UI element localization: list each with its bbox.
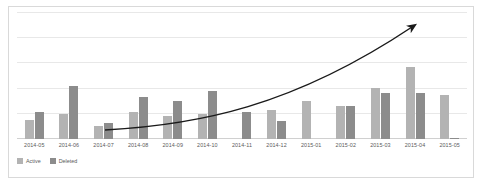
- bar-deleted: [277, 121, 286, 139]
- legend-item-deleted[interactable]: Deleted: [50, 158, 78, 164]
- x-axis-tick-label: 2014-08: [121, 142, 156, 148]
- x-axis-tick-label: 2015-01: [294, 142, 329, 148]
- x-axis-tick-label: 2015-04: [398, 142, 433, 148]
- bar-deleted: [381, 93, 390, 139]
- plot-area: [17, 12, 467, 139]
- bar-group: [155, 12, 190, 139]
- bar-active: [371, 88, 380, 139]
- x-axis-tick-label: 2014-12: [259, 142, 294, 148]
- bar-active: [25, 120, 34, 139]
- bar-deleted: [346, 106, 355, 139]
- bar-deleted: [450, 138, 459, 139]
- bar-deleted: [242, 112, 251, 139]
- bar-group: [294, 12, 329, 139]
- legend-item-active[interactable]: Active: [17, 158, 41, 164]
- bar-deleted: [69, 86, 78, 139]
- bar-group: [328, 12, 363, 139]
- x-axis-labels: 2014-052014-062014-072014-082014-092014-…: [17, 142, 467, 148]
- legend-label: Deleted: [59, 158, 78, 164]
- bar-group: [86, 12, 121, 139]
- bar-active: [163, 116, 172, 139]
- bar-deleted: [173, 101, 182, 139]
- x-axis-tick-label: 2015-03: [363, 142, 398, 148]
- bar-group: [225, 12, 260, 139]
- x-axis-tick-label: 2015-02: [328, 142, 363, 148]
- bar-active: [129, 112, 138, 139]
- bar-group: [121, 12, 156, 139]
- bar-active: [440, 95, 449, 139]
- bar-group: [17, 12, 52, 139]
- x-axis-tick-label: 2014-11: [225, 142, 260, 148]
- bar-group: [398, 12, 433, 139]
- bar-active: [336, 106, 345, 139]
- x-axis-tick-label: 2015-05: [432, 142, 467, 148]
- bar-deleted: [208, 91, 217, 139]
- bar-active: [302, 101, 311, 139]
- bar-group: [432, 12, 467, 139]
- bar-active: [267, 110, 276, 139]
- x-axis-tick-label: 2014-07: [86, 142, 121, 148]
- x-axis-tick-label: 2014-06: [52, 142, 87, 148]
- bar-group: [190, 12, 225, 139]
- x-axis-tick-label: 2014-09: [155, 142, 190, 148]
- bar-active: [406, 67, 415, 139]
- bar-chart-widget: 2014-052014-062014-072014-082014-092014-…: [0, 0, 484, 190]
- bar-deleted: [416, 93, 425, 139]
- bar-deleted: [104, 123, 113, 140]
- bar-deleted: [139, 97, 148, 139]
- legend-swatch-icon: [50, 158, 56, 164]
- bars-layer: [17, 12, 467, 139]
- bar-active: [94, 126, 103, 139]
- bar-group: [363, 12, 398, 139]
- bar-active: [59, 114, 68, 139]
- bar-group: [52, 12, 87, 139]
- legend-swatch-icon: [17, 158, 23, 164]
- x-axis-tick-label: 2014-05: [17, 142, 52, 148]
- legend-label: Active: [26, 158, 41, 164]
- chart-legend: ActiveDeleted: [17, 158, 77, 164]
- bar-active: [198, 114, 207, 139]
- bar-group: [259, 12, 294, 139]
- x-axis-tick-label: 2014-10: [190, 142, 225, 148]
- bar-deleted: [35, 112, 44, 139]
